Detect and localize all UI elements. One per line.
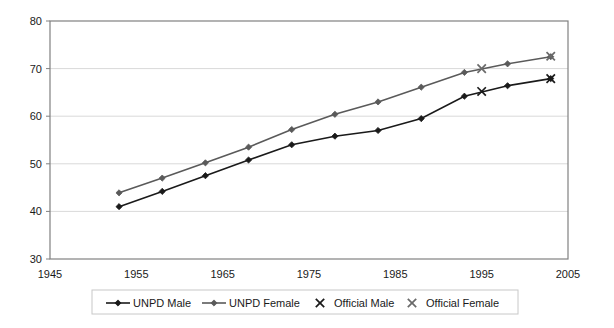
line-chart: 304050607080 194519551965197519851995200…: [0, 0, 614, 328]
y-tick-label: 80: [30, 15, 42, 27]
y-tick-label: 30: [30, 253, 42, 265]
y-tick-label: 50: [30, 158, 42, 170]
legend-item-label: Official Male: [334, 297, 394, 309]
x-tick-label: 1945: [38, 268, 62, 280]
y-tick-label: 70: [30, 63, 42, 75]
chart-legend: UNPD MaleUNPD FemaleOfficial MaleOfficia…: [92, 290, 518, 314]
legend-item-label: Official Female: [426, 297, 499, 309]
x-tick-label: 1975: [297, 268, 321, 280]
legend-item-label: UNPD Female: [229, 297, 300, 309]
x-tick-label: 1965: [210, 268, 234, 280]
y-tick-label: 40: [30, 205, 42, 217]
chart-container: 304050607080 194519551965197519851995200…: [0, 0, 614, 328]
x-tick-label: 1995: [469, 268, 493, 280]
x-tick-label: 2005: [556, 268, 580, 280]
legend-item-label: UNPD Male: [133, 297, 191, 309]
y-tick-label: 60: [30, 110, 42, 122]
x-tick-label: 1955: [124, 268, 148, 280]
x-tick-label: 1985: [383, 268, 407, 280]
